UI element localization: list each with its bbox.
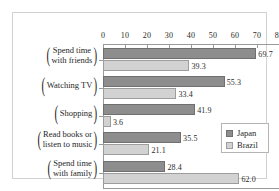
legend-entry-brazil: Brazil: [226, 139, 268, 151]
bottom-axis-line: [103, 188, 279, 189]
x-tick-label-60: 60: [231, 31, 239, 40]
bar-value-brazil-0: 39.3: [191, 62, 205, 71]
bar-japan-1: [103, 76, 225, 87]
bar-brazil-1: [103, 88, 176, 99]
category-label-text-2: Shopping: [60, 109, 93, 119]
category-label-2: (Shopping): [15, 102, 99, 125]
bar-value-japan-4: 28.4: [167, 163, 181, 172]
category-label-text-3: Read books orlisten to music: [43, 130, 93, 149]
bar-chart-figure: 01020304050607080 (Spend timewith friend…: [0, 0, 279, 191]
category-label-line1-1: Watching TV: [47, 80, 93, 90]
bar-japan-0: [103, 48, 256, 59]
x-tick-label-70: 70: [253, 31, 261, 40]
label-close-paren-2: ): [94, 109, 98, 118]
bar-value-brazil-4: 62.0: [241, 175, 255, 184]
label-open-paren-4: (: [48, 164, 52, 173]
bar-value-japan-0: 69.7: [258, 50, 272, 59]
legend-swatch-japan: [226, 130, 233, 137]
chart-frame: 01020304050607080 (Spend timewith friend…: [12, 12, 267, 179]
category-label-4: (Spend timewith family): [15, 157, 99, 180]
label-open-paren-3: (: [38, 135, 42, 144]
category-label-line1-0: Spend time: [53, 45, 91, 55]
category-label-line1-3: Read books or: [43, 129, 92, 139]
bar-brazil-2: [103, 116, 111, 127]
legend-label-japan: Japan: [237, 128, 256, 138]
bar-brazil-3: [103, 144, 149, 155]
label-close-paren-1: ): [94, 81, 98, 90]
category-label-3: (Read books orlisten to music): [15, 128, 99, 151]
x-tick-label-30: 30: [165, 31, 173, 40]
bar-value-japan-2: 41.9: [197, 106, 211, 115]
label-close-paren-4: ): [94, 164, 98, 173]
x-tick-label-80: 80: [275, 31, 279, 40]
label-close-paren-3: ): [94, 135, 98, 144]
legend-label-brazil: Brazil: [237, 140, 258, 150]
legend-entry-japan: Japan: [226, 127, 268, 139]
x-tick-label-10: 10: [121, 31, 129, 40]
x-tick-label-20: 20: [143, 31, 151, 40]
x-tick-label-0: 0: [101, 31, 105, 40]
bar-value-japan-1: 55.3: [227, 78, 241, 87]
category-label-line1-4: Spend time: [53, 158, 91, 168]
bar-value-japan-3: 35.5: [183, 134, 197, 143]
bar-value-brazil-1: 33.4: [178, 90, 192, 99]
category-label-line2-4: with family: [53, 169, 92, 179]
label-open-paren-2: (: [55, 109, 59, 118]
category-label-line2-3: listen to music: [43, 140, 93, 150]
bar-value-brazil-2: 3.6: [113, 118, 123, 127]
label-close-paren-0: ): [94, 51, 98, 60]
x-tick-label-50: 50: [209, 31, 217, 40]
bar-brazil-4: [103, 173, 239, 184]
bar-brazil-0: [103, 60, 189, 71]
chart-legend: Japan Brazil: [221, 123, 269, 153]
category-label-0: (Spend timewith friends): [15, 44, 99, 67]
category-label-1: (Watching TV): [15, 74, 99, 97]
label-open-paren-1: (: [41, 81, 45, 90]
bar-japan-2: [103, 104, 195, 115]
x-tick-label-40: 40: [187, 31, 195, 40]
bar-value-brazil-3: 21.1: [151, 146, 165, 155]
category-label-text-4: Spend timewith family: [53, 159, 92, 178]
category-label-text-1: Watching TV: [47, 81, 93, 91]
bar-japan-3: [103, 132, 181, 143]
category-label-text-0: Spend timewith friends: [51, 46, 92, 65]
bar-japan-4: [103, 161, 165, 172]
category-label-line1-2: Shopping: [60, 108, 93, 118]
category-label-line2-0: with friends: [51, 56, 92, 66]
legend-swatch-brazil: [226, 142, 233, 149]
label-open-paren-0: (: [46, 51, 50, 60]
